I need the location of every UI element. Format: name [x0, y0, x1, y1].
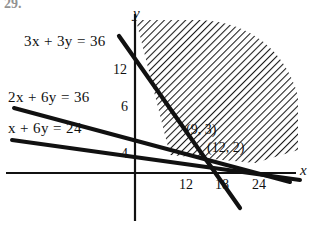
- y-axis-label: y: [133, 5, 140, 22]
- x-tick-18: 18: [215, 177, 229, 193]
- x-tick-12: 12: [179, 177, 193, 193]
- y-tick-4: 4: [121, 146, 128, 162]
- y-tick-12: 12: [113, 62, 127, 78]
- linear-programming-graph: 29. 3x + 3y = 36 2x + 6y = 36: [0, 0, 312, 227]
- x-axis-label: x: [300, 162, 307, 179]
- equation-label-1: 3x + 3y = 36: [24, 33, 106, 50]
- point-label-9-3: (9, 3): [186, 122, 216, 138]
- y-tick-6: 6: [121, 99, 128, 115]
- x-tick-24: 24: [252, 177, 266, 193]
- point-label-12-2: (12, 2): [207, 140, 244, 156]
- equation-label-3: x + 6y = 24: [8, 120, 82, 137]
- equation-label-2: 2x + 6y = 36: [8, 89, 90, 106]
